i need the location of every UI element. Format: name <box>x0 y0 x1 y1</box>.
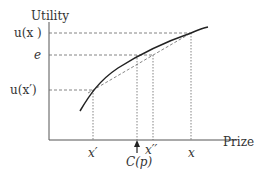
tick-u-xp: u(x′) <box>10 83 37 97</box>
y-axis-label: Utility <box>31 9 69 23</box>
x-axis-label: Prize <box>223 135 254 149</box>
tick-u-x: u(x ) <box>14 26 42 40</box>
tick-e: e <box>34 48 41 62</box>
utility-curve <box>80 27 208 111</box>
tick-xp: x′ <box>88 146 98 160</box>
cp-arrow-icon <box>134 140 140 147</box>
tick-x: x <box>188 146 195 160</box>
tick-cp: C(p) <box>126 155 153 169</box>
chord-line <box>88 33 191 93</box>
utility-diagram: Utility Prize u(x ) e u(x′) x′ x′′ x C(p… <box>0 0 262 180</box>
